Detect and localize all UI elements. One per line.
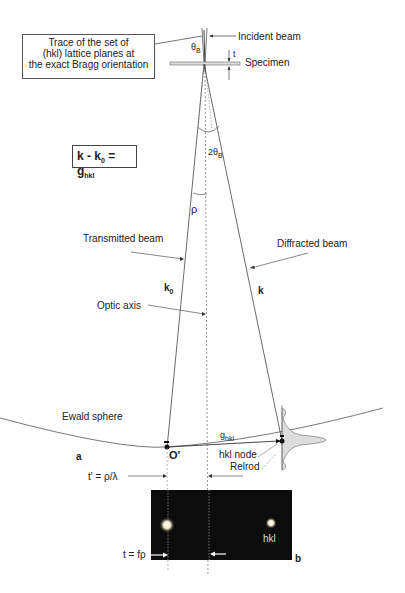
arrow-icon xyxy=(228,58,231,62)
arrow-icon xyxy=(209,35,213,38)
ewald-sphere-arc xyxy=(0,408,383,447)
arrow-icon xyxy=(163,474,167,478)
two-theta-arc xyxy=(199,126,219,132)
arrow-icon xyxy=(228,66,231,70)
arrow-icon xyxy=(180,257,184,261)
hkl-node xyxy=(280,439,285,444)
arrow-icon xyxy=(250,266,255,270)
equation-box: k - k0 = ghkl xyxy=(72,145,137,168)
diffracted-beam-label: Diffracted beam xyxy=(277,238,347,249)
k0-label: k0 xyxy=(164,282,173,297)
trace-label-line: the exact Bragg orientation xyxy=(27,59,150,70)
origin-label: O' xyxy=(169,450,180,461)
rho-arc xyxy=(193,193,207,195)
relrod-label: Relrod xyxy=(230,461,259,472)
spot-hkl-label: hkl xyxy=(263,533,276,544)
incident-beam-label: Incident beam xyxy=(238,31,301,42)
transmitted-beam-line xyxy=(167,64,204,448)
theta-b-label: θB xyxy=(191,42,201,56)
arrow-icon xyxy=(208,474,212,478)
diffracted-beam-line xyxy=(204,64,282,441)
hkl-node-label: hkl node xyxy=(219,449,257,460)
panel-a-label: a xyxy=(76,451,82,462)
trace-label-line: (hkl) lattice planes at xyxy=(27,48,150,59)
g-hkl-label: ghkl xyxy=(220,430,234,444)
two-theta-b-label: 2θB xyxy=(208,147,223,161)
rho-label: ρ xyxy=(191,204,197,215)
ewald-sphere-label: Ewald sphere xyxy=(62,411,123,422)
relrod-profile xyxy=(282,408,326,470)
t-f-rho-label: t = fρ xyxy=(123,549,146,560)
transmitted-beam-label: Transmitted beam xyxy=(83,233,163,244)
arrow-icon xyxy=(202,312,206,316)
trace-label-box: Trace of the set of (hkl) lattice planes… xyxy=(22,34,155,79)
optic-axis-label: Optic axis xyxy=(97,300,141,311)
thickness-label: t xyxy=(233,49,236,60)
t-prime-label: t' = ρ/λ xyxy=(88,471,118,482)
specimen-label: Specimen xyxy=(245,57,289,68)
trace-label-line: Trace of the set of xyxy=(27,37,150,48)
incident-beam-line xyxy=(205,28,207,64)
panel-b-label: b xyxy=(295,553,301,564)
hkl-spot xyxy=(265,517,277,529)
k-label: k xyxy=(258,285,264,296)
transmitted-spot xyxy=(159,517,175,533)
diagram-canvas xyxy=(0,0,405,593)
